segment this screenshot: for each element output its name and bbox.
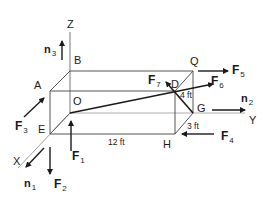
force-label-f3: F3 bbox=[15, 120, 28, 135]
unit-vector-n2-label: n2 bbox=[241, 93, 253, 107]
force-label-f5: F5 bbox=[232, 64, 245, 79]
unit-vector-n1-label: n1 bbox=[24, 178, 36, 192]
point-label-h: H bbox=[163, 139, 171, 150]
point-label-o: O bbox=[73, 96, 82, 107]
point-label-d: D bbox=[171, 79, 179, 90]
dimension-depth: 3 ft bbox=[187, 122, 199, 131]
axis-label-z: Z bbox=[67, 19, 74, 30]
point-label-q: Q bbox=[190, 56, 199, 67]
force-label-f2: F2 bbox=[54, 178, 67, 193]
dimension-length: 12 ft bbox=[108, 138, 125, 147]
dimension-height: 4 ft bbox=[180, 91, 192, 100]
axis-label-y: Y bbox=[249, 115, 256, 126]
point-label-e: E bbox=[38, 124, 45, 135]
n1-arrow bbox=[26, 148, 44, 167]
axis-label-x: X bbox=[13, 156, 20, 167]
point-label-a: A bbox=[34, 80, 41, 91]
point-label-b: B bbox=[74, 55, 81, 66]
point-label-g: G bbox=[197, 103, 206, 114]
diagram-canvas bbox=[0, 0, 269, 202]
force-diagram: Z B Q A D O G Y E H X 12 ft 4 ft 3 ft n3… bbox=[0, 0, 269, 202]
force-label-f7: F7 bbox=[148, 74, 161, 89]
force-label-f1: F1 bbox=[72, 150, 85, 165]
unit-vector-n3-label: n3 bbox=[44, 44, 56, 58]
force-label-f6: F6 bbox=[211, 75, 224, 90]
force-f3-arrow bbox=[24, 98, 44, 117]
force-label-f4: F4 bbox=[221, 130, 234, 145]
